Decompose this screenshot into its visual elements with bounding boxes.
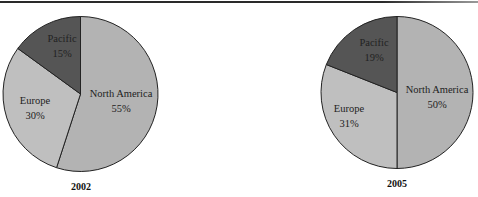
pct-pacific-2005: 19% xyxy=(364,52,384,63)
pct-pacific-2002: 15% xyxy=(52,48,72,59)
label-north-america-2005: North America xyxy=(406,84,469,95)
pct-north-america-2002: 55% xyxy=(111,103,131,114)
year-label-2005: 2005 xyxy=(387,178,407,189)
label-pacific-2002: Pacific xyxy=(47,33,76,44)
label-north-america-2002: North America xyxy=(90,88,153,99)
pct-europe-2002: 30% xyxy=(25,110,45,121)
pct-north-america-2005: 50% xyxy=(427,99,447,110)
label-europe-2005: Europe xyxy=(334,103,365,114)
pct-europe-2005: 31% xyxy=(339,118,359,129)
label-pacific-2005: Pacific xyxy=(359,37,388,48)
year-label-2002: 2002 xyxy=(71,181,91,192)
pie-charts: Pacific 15% Europe 30% North America 55%… xyxy=(0,0,478,197)
label-europe-2002: Europe xyxy=(20,95,51,106)
